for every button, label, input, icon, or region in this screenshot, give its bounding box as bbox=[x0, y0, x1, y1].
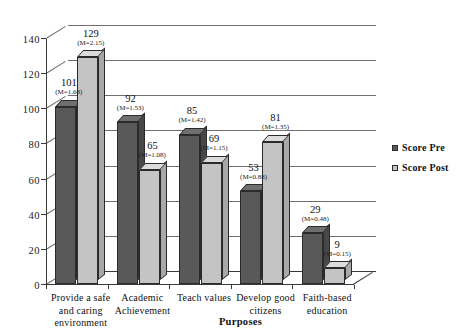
bar-face bbox=[240, 191, 261, 284]
bar bbox=[262, 142, 283, 284]
bar-side bbox=[283, 132, 290, 280]
bar-face bbox=[324, 268, 345, 284]
x-axis-title: Purposes bbox=[14, 316, 467, 327]
y-axis-tick-label: 20 bbox=[8, 244, 40, 255]
category-label-line: Faith-based bbox=[285, 292, 369, 305]
bar bbox=[240, 191, 261, 284]
y-axis-tick-label: 100 bbox=[8, 104, 40, 115]
y-axis-tick-label: 140 bbox=[8, 34, 40, 45]
bar-face bbox=[302, 233, 323, 284]
bar-side bbox=[160, 160, 167, 280]
bar-chart: 020406080100120140 101(M=1.68)129(M=2.15… bbox=[0, 0, 467, 331]
legend-item[interactable]: Score Post bbox=[392, 162, 449, 173]
bar-face bbox=[55, 107, 76, 284]
y-axis-tick-label: 60 bbox=[8, 174, 40, 185]
legend-swatch-icon bbox=[392, 165, 398, 171]
x-axis-tick bbox=[292, 285, 293, 289]
gridline bbox=[68, 25, 376, 26]
bar-face bbox=[262, 142, 283, 284]
bar bbox=[77, 57, 98, 284]
bar-groups bbox=[46, 38, 354, 284]
legend-label: Score Post bbox=[402, 162, 449, 173]
y-axis-tick-label: 120 bbox=[8, 69, 40, 80]
legend-item[interactable]: Score Pre bbox=[392, 142, 449, 153]
bar-face bbox=[139, 170, 160, 284]
plot-area: 020406080100120140 101(M=1.68)129(M=2.15… bbox=[46, 26, 376, 285]
plot-floor: 020406080100120140 101(M=1.68)129(M=2.15… bbox=[46, 26, 376, 285]
bar bbox=[117, 122, 138, 284]
bar-face bbox=[117, 122, 138, 284]
gridline-depth-connector bbox=[46, 26, 66, 39]
bar bbox=[179, 135, 200, 284]
bar bbox=[139, 170, 160, 284]
bar-face bbox=[201, 163, 222, 284]
x-axis-tick bbox=[354, 285, 355, 289]
x-axis-tick bbox=[231, 285, 232, 289]
bar bbox=[302, 233, 323, 284]
x-axis-line bbox=[46, 284, 354, 285]
x-axis-depth-edge bbox=[353, 272, 373, 285]
bar-face bbox=[77, 57, 98, 284]
x-axis-tick bbox=[46, 285, 47, 289]
category-label: Faith-basededucation bbox=[285, 292, 369, 317]
legend-swatch-icon bbox=[392, 145, 398, 151]
bar bbox=[324, 268, 345, 284]
bar bbox=[55, 107, 76, 284]
y-axis-tick-label: 40 bbox=[8, 209, 40, 220]
bar-face bbox=[179, 135, 200, 284]
bar bbox=[201, 163, 222, 284]
bar-side bbox=[98, 48, 105, 280]
x-axis-tick bbox=[169, 285, 170, 289]
bar-side bbox=[222, 153, 229, 280]
legend-label: Score Pre bbox=[402, 142, 445, 153]
y-axis-tick-label: 0 bbox=[8, 280, 40, 291]
y-axis-tick-label: 80 bbox=[8, 139, 40, 150]
x-axis-tick bbox=[108, 285, 109, 289]
chart-legend: Score PreScore Post bbox=[392, 142, 449, 182]
